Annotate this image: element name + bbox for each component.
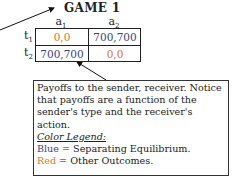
payoff-matrix: 0,0 700,700 700,700 0,0: [35, 28, 141, 62]
row-header-t1: t1: [24, 29, 33, 44]
note-line: sender's type and the receiver's action.: [37, 106, 225, 130]
game-title: GAME 1: [64, 1, 120, 15]
note-line: that payoffs are a function of the: [37, 94, 225, 106]
explanation-box: Payoffs to the sender, receiver. Notice …: [33, 80, 229, 176]
row-header-t2: t2: [24, 46, 33, 61]
note-line: Payoffs to the sender, receiver. Notice: [37, 82, 225, 94]
payoff-cell-t1-a2: 700,700: [89, 29, 141, 45]
arrow-to-cell: [77, 62, 106, 80]
payoff-cell-t2-a2: 0,0: [89, 46, 141, 62]
legend-title: Color Legend:: [37, 131, 225, 143]
legend-item-blue: Blue = Separating Equilibrium.: [37, 143, 225, 155]
payoff-cell-t1-a1: 0,0: [36, 29, 88, 45]
payoff-cell-t2-a1: 700,700: [36, 46, 88, 62]
legend-item-red: Red = Other Outcomes.: [37, 155, 225, 167]
